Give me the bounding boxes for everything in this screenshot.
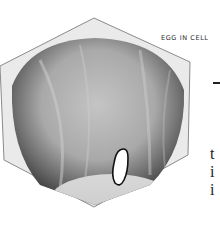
figure-caption: EGG IN CELL <box>161 34 209 42</box>
text-fragment: i <box>210 182 214 198</box>
heading-fragment <box>213 82 220 84</box>
text-fragment: i <box>210 164 214 180</box>
cell-floor <box>50 174 174 226</box>
text-fragment: t <box>210 146 214 162</box>
